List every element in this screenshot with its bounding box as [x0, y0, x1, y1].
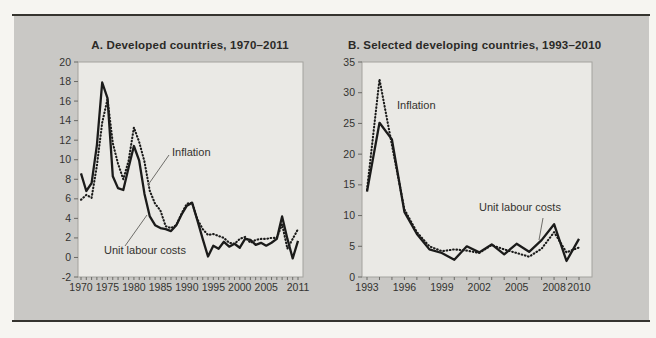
- y-tick-label: 2: [65, 231, 71, 243]
- x-tick-label: 1996: [393, 281, 417, 293]
- y-tick-label: 20: [59, 56, 71, 68]
- y-tick-label: 14: [59, 114, 71, 126]
- y-tick-label: 8: [65, 173, 71, 185]
- y-tick-label: 12: [59, 134, 71, 146]
- y-tick-label: 15: [343, 178, 355, 190]
- x-tick-label: 2010: [567, 281, 591, 293]
- y-tick-label: 10: [343, 209, 355, 221]
- x-tick-label: 1999: [430, 281, 454, 293]
- x-tick-label: 1975: [96, 281, 120, 293]
- x-tick-label: 1980: [122, 281, 146, 293]
- x-tick-label: 1995: [202, 281, 226, 293]
- x-tick-label: 1993: [355, 281, 379, 293]
- panel-b-unit-labour-costs-label: Unit labour costs: [479, 201, 561, 213]
- panel-b-inflation-label: Inflation: [397, 99, 436, 111]
- panel-a-inflation-label: Inflation: [172, 146, 211, 158]
- y-tick-label: 0: [65, 251, 71, 263]
- y-tick-label: 5: [349, 240, 355, 252]
- x-tick-label: 1970: [69, 281, 93, 293]
- x-tick-label: 1985: [149, 281, 173, 293]
- y-tick-label: 6: [65, 192, 71, 204]
- y-tick-label: 16: [59, 95, 71, 107]
- bottom-rule: [12, 320, 650, 322]
- panel-a-unit-labour-costs-label: Unit labour costs: [104, 244, 186, 256]
- y-tick-label: 4: [65, 212, 71, 224]
- y-tick-label: 30: [343, 86, 355, 98]
- scanned-report-figure-page: { "page": { "outer_background": "#f6f5f1…: [0, 0, 656, 338]
- x-tick-label: 2002: [468, 281, 492, 293]
- x-tick-label: 2005: [255, 281, 279, 293]
- y-tick-label: 10: [59, 153, 71, 165]
- y-tick-label: 20: [343, 148, 355, 160]
- y-tick-label: 18: [59, 75, 71, 87]
- x-tick-label: 2005: [505, 281, 529, 293]
- y-tick-label: 35: [343, 56, 355, 68]
- y-tick-label: 0: [349, 271, 355, 283]
- x-tick-label: 2008: [542, 281, 566, 293]
- line-charts-canvas: -202468101214161820197019751980198519901…: [0, 0, 656, 338]
- x-tick-label: 1990: [175, 281, 199, 293]
- y-tick-label: 25: [343, 117, 355, 129]
- x-tick-label: 2011: [287, 281, 310, 293]
- x-tick-label: 2000: [228, 281, 252, 293]
